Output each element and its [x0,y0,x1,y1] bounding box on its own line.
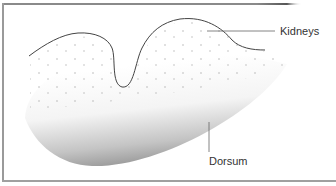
label-dorsum: Dorsum [209,156,248,167]
label-kidneys: Kidneys [280,26,319,37]
